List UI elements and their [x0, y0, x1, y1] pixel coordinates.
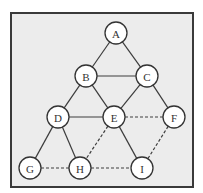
node-i: I: [131, 157, 153, 179]
node-label: D: [54, 112, 62, 124]
node-label: G: [26, 163, 34, 175]
node-label: H: [76, 163, 84, 175]
node-e: E: [103, 106, 125, 128]
graph-diagram: ABCDEFGHI: [0, 0, 203, 193]
node-label: E: [111, 112, 118, 124]
node-a: A: [105, 22, 127, 44]
node-f: F: [163, 106, 185, 128]
node-d: D: [47, 106, 69, 128]
node-h: H: [69, 157, 91, 179]
node-label: B: [82, 71, 89, 83]
node-label: A: [112, 28, 120, 40]
node-b: B: [75, 65, 97, 87]
node-g: G: [19, 157, 41, 179]
node-label: C: [143, 71, 150, 83]
node-c: C: [136, 65, 158, 87]
node-label: I: [140, 163, 144, 175]
node-label: F: [171, 112, 177, 124]
